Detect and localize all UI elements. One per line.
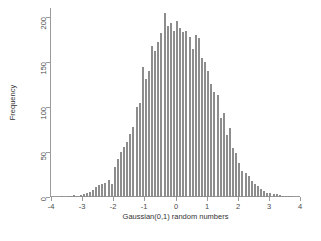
histogram-bar xyxy=(266,193,268,198)
histogram-bar xyxy=(120,152,122,197)
histogram-bar xyxy=(167,26,169,197)
histogram-bar xyxy=(223,113,225,197)
histogram-bar xyxy=(173,31,175,198)
x-axis-tick-label: 2 xyxy=(228,202,248,211)
histogram-bar xyxy=(126,142,128,197)
histogram-bar xyxy=(217,95,219,197)
histogram-bar xyxy=(238,163,240,197)
histogram-bar xyxy=(207,71,209,197)
histogram-bar xyxy=(257,186,259,197)
histogram-bar xyxy=(154,51,156,197)
histogram-bar xyxy=(114,167,116,197)
y-axis-tick-label: 100 xyxy=(40,107,48,120)
histogram-bar xyxy=(182,32,184,197)
histogram-bar xyxy=(164,13,166,198)
histogram-bar xyxy=(170,23,172,197)
histogram-bar xyxy=(176,21,178,197)
histogram-bar xyxy=(139,103,141,197)
y-axis-tick-label-wrap: 50 xyxy=(0,148,44,156)
histogram-bar xyxy=(132,127,134,197)
histogram-bar xyxy=(263,191,265,197)
histogram-bar xyxy=(276,194,278,197)
histogram-bars xyxy=(51,8,300,197)
histogram-bar xyxy=(148,71,150,197)
histogram-bar xyxy=(157,42,159,197)
histogram-bar xyxy=(151,46,153,197)
histogram-bar xyxy=(213,92,215,197)
histogram-bar xyxy=(86,193,88,197)
histogram-bar xyxy=(123,147,125,197)
histogram-bar xyxy=(136,107,138,197)
histogram-bar xyxy=(98,185,100,197)
x-axis-tick-label: -1 xyxy=(134,202,154,211)
histogram-bar xyxy=(195,35,197,197)
histogram-bar xyxy=(189,37,191,197)
histogram-bar xyxy=(129,134,131,197)
histogram-bar xyxy=(117,159,119,197)
histogram-bar xyxy=(220,118,222,197)
histogram-bar xyxy=(104,183,106,197)
x-axis-tick xyxy=(51,197,52,201)
y-axis-tick-label: 50 xyxy=(40,152,48,160)
x-axis-tick-label: 0 xyxy=(166,202,186,211)
histogram-bar xyxy=(160,33,162,197)
histogram-bar xyxy=(89,192,91,197)
histogram-bar xyxy=(273,194,275,197)
histogram-bar xyxy=(291,196,293,197)
histogram-bar xyxy=(279,195,281,197)
y-axis-tick-label: 200 xyxy=(40,17,48,30)
histogram-bar xyxy=(101,184,103,197)
x-axis-title: Gaussian(0,1) random numbers xyxy=(51,212,300,221)
x-axis-tick-label: -2 xyxy=(103,202,123,211)
histogram-bar xyxy=(235,153,237,197)
y-axis-title: Frequency xyxy=(8,0,18,205)
histogram-bar xyxy=(76,196,78,197)
histogram-bar xyxy=(204,62,206,197)
histogram-bar xyxy=(179,28,181,197)
histogram-bar xyxy=(226,135,228,197)
histogram-bar xyxy=(285,196,287,197)
histogram-bar xyxy=(201,58,203,198)
y-axis-tick-label: 150 xyxy=(40,62,48,75)
histogram-bar xyxy=(251,181,253,197)
histogram-bar xyxy=(67,196,69,197)
y-axis-tick-label: 0 xyxy=(40,197,48,201)
x-axis-tick-label: -4 xyxy=(41,202,61,211)
histogram-bar xyxy=(229,128,231,197)
histogram-bar xyxy=(192,49,194,198)
x-axis-tick xyxy=(269,197,270,201)
histogram-bar xyxy=(241,171,243,197)
histogram-bar xyxy=(198,38,200,197)
histogram-bar xyxy=(185,31,187,198)
x-axis-tick-label: 1 xyxy=(197,202,217,211)
histogram-bar xyxy=(210,84,212,197)
y-axis-tick-label-wrap: 100 xyxy=(0,103,44,111)
histogram-figure: 050100150200 -4-3-2-101234 Frequency Gau… xyxy=(0,0,321,241)
histogram-bar xyxy=(260,189,262,197)
x-axis-tick xyxy=(207,197,208,201)
x-axis-tick-label: -3 xyxy=(72,202,92,211)
x-axis-tick xyxy=(144,197,145,201)
histogram-bar xyxy=(70,196,72,197)
x-axis-tick-label: 4 xyxy=(290,202,310,211)
y-axis-title-label: Frequency xyxy=(9,85,18,120)
histogram-bar xyxy=(254,184,256,198)
histogram-bar xyxy=(111,184,113,197)
y-axis-tick-label-wrap: 0 xyxy=(0,193,44,201)
histogram-bar xyxy=(73,195,75,197)
histogram-bar xyxy=(282,196,284,197)
histogram-bar xyxy=(248,176,250,197)
x-axis-tick xyxy=(82,197,83,201)
histogram-bar xyxy=(61,196,63,197)
y-axis-tick-label-wrap: 150 xyxy=(0,58,44,66)
x-axis-tick xyxy=(113,197,114,201)
y-axis-tick-label-wrap: 200 xyxy=(0,13,44,21)
histogram-bar xyxy=(232,148,234,198)
x-axis-tick-label: 3 xyxy=(259,202,279,211)
x-axis-tick xyxy=(300,197,301,201)
histogram-bar xyxy=(108,180,110,197)
histogram-bar xyxy=(92,190,94,197)
histogram-bar xyxy=(142,67,144,198)
histogram-bar xyxy=(245,173,247,197)
x-axis-tick xyxy=(176,197,177,201)
